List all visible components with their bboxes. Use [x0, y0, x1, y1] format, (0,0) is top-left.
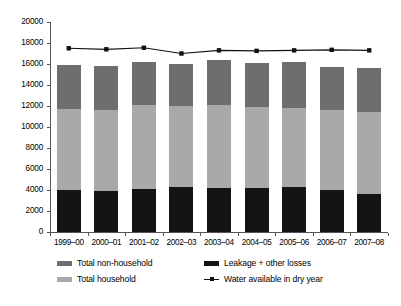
legend-label: Water available in dry year: [224, 275, 323, 284]
line-marker: [104, 47, 108, 51]
plot-area: 0200040006000800010000120001400016000180…: [0, 0, 401, 252]
legend-item-leakage-other-losses[interactable]: Leakage + other losses: [204, 259, 311, 268]
line-marker: [367, 48, 371, 52]
line-marker: [254, 49, 258, 53]
legend-item-total-non-household[interactable]: Total non-household: [57, 259, 153, 268]
light-gray-swatch-icon: [57, 277, 72, 282]
line-marker-swatch-icon: [204, 276, 219, 283]
water-available-line-series: [0, 0, 401, 252]
line-marker: [329, 48, 333, 52]
chart-legend: Total non-household Total household Leak…: [57, 259, 387, 299]
stacked-bar-chart: 0200040006000800010000120001400016000180…: [0, 0, 401, 306]
line-marker: [142, 46, 146, 50]
line-marker: [217, 48, 221, 52]
dark-gray-swatch-icon: [57, 261, 72, 266]
legend-label: Total household: [77, 275, 136, 284]
black-swatch-icon: [204, 261, 219, 266]
line-marker: [179, 51, 183, 55]
legend-item-total-household[interactable]: Total household: [57, 275, 136, 284]
legend-label: Total non-household: [77, 259, 153, 268]
line-marker: [292, 48, 296, 52]
legend-label: Leakage + other losses: [224, 259, 311, 268]
line-marker: [67, 46, 71, 50]
legend-item-water-available-in-dry-year[interactable]: Water available in dry year: [204, 275, 323, 284]
